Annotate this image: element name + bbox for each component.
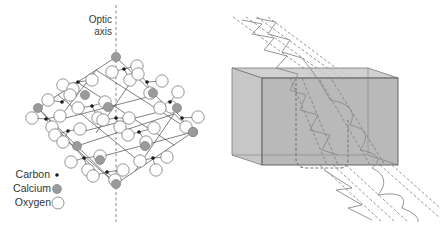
- exiting-ordinary-wave: [324, 170, 372, 220]
- carbon-atom: [122, 67, 126, 71]
- oxygen-atom: [192, 111, 204, 123]
- oxygen-atom: [87, 170, 99, 182]
- calcium-atom: [103, 102, 112, 111]
- oxygen-atom: [156, 75, 168, 87]
- oxygen-atom: [154, 102, 166, 114]
- carbon-atom: [82, 156, 86, 160]
- legend-label-calcium: Calcium: [13, 182, 51, 194]
- carbon-swatch-icon: [55, 173, 59, 177]
- calcite-structure-panel: Optic axis Carbon Calcium Oxygen: [13, 5, 204, 222]
- oxygen-atom: [161, 151, 173, 163]
- calcium-atom: [172, 103, 181, 112]
- oxygen-atom: [150, 164, 162, 176]
- atoms: [26, 52, 204, 188]
- oxygen-atom: [117, 164, 129, 176]
- oxygen-atom: [64, 89, 76, 101]
- oxygen-atom: [97, 114, 109, 126]
- oxygen-atom: [26, 112, 38, 124]
- oxygen-atom: [42, 94, 54, 106]
- crystal-front-face: [262, 78, 398, 165]
- carbon-atom: [44, 117, 48, 121]
- optic-axis-label-line2: axis: [94, 26, 112, 37]
- carbon-atom: [60, 100, 64, 104]
- crystal-left-face: [232, 68, 262, 165]
- calcium-atom: [80, 90, 89, 99]
- legend-label-oxygen: Oxygen: [15, 196, 51, 208]
- oxygen-atom: [54, 110, 66, 122]
- legend-item-calcium: Calcium: [13, 182, 61, 194]
- exiting-beam-edge: [392, 165, 440, 208]
- carbon-atom: [76, 80, 80, 84]
- calcium-atom: [140, 141, 149, 150]
- crystal-block: [232, 68, 398, 165]
- legend-item-carbon: Carbon: [16, 168, 59, 180]
- exiting-beam-edge: [346, 165, 408, 222]
- carbon-atom: [114, 116, 118, 120]
- oxygen-atom: [72, 102, 84, 114]
- oxygen-atom: [74, 123, 86, 135]
- oxygen-atom: [132, 68, 144, 80]
- calcium-atom: [95, 155, 104, 164]
- calcium-atom: [33, 103, 42, 112]
- oxygen-atom: [172, 86, 184, 98]
- legend-item-oxygen: Oxygen: [15, 196, 64, 209]
- legend: Carbon Calcium Oxygen: [13, 168, 64, 209]
- oxygen-atom: [123, 112, 135, 124]
- oxygen-swatch-icon: [52, 197, 64, 209]
- exiting-beam-edge: [380, 165, 440, 218]
- oxygen-atom: [134, 155, 146, 167]
- optic-axis-label-line1: Optic: [89, 14, 112, 25]
- figure: Optic axis Carbon Calcium Oxygen: [0, 0, 440, 230]
- calcium-atom: [111, 52, 120, 61]
- carbon-atom: [180, 116, 184, 120]
- calcium-atom: [111, 179, 120, 188]
- oxygen-atom: [57, 136, 69, 148]
- legend-label-carbon: Carbon: [16, 168, 51, 180]
- carbon-atom: [168, 100, 172, 104]
- calcium-atom: [72, 141, 81, 150]
- carbon-atom: [105, 170, 109, 174]
- carbon-atom: [66, 129, 70, 133]
- oxygen-atom: [148, 122, 160, 134]
- carbon-atom: [145, 80, 149, 84]
- carbon-atom: [137, 130, 141, 134]
- oxygen-atom: [65, 156, 77, 168]
- oxygen-atom: [106, 66, 118, 78]
- carbon-atom: [151, 156, 155, 160]
- oxygen-atom: [122, 129, 134, 141]
- calcium-atom: [148, 88, 157, 97]
- calcium-atom: [188, 127, 197, 136]
- birefringence-panel: [232, 17, 440, 222]
- calcium-swatch-icon: [53, 185, 62, 194]
- carbon-atom: [90, 104, 94, 108]
- oxygen-atom: [86, 74, 98, 86]
